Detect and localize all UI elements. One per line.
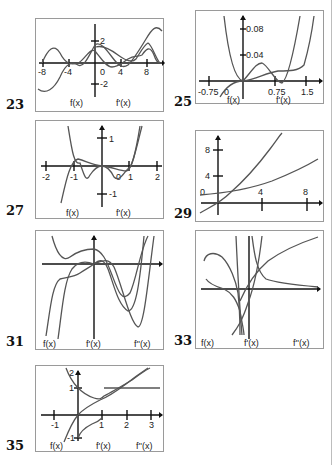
svg-text:f'(x): f'(x): [244, 338, 259, 348]
svg-text:-2: -2: [100, 79, 108, 89]
svg-text:1: 1: [128, 172, 133, 182]
svg-text:-2: -2: [42, 172, 50, 182]
svg-text:f(x): f(x): [66, 208, 79, 218]
page-margin-divider: [331, 0, 332, 465]
svg-text:f(x): f(x): [50, 441, 63, 451]
graph-panel-23: -8 -4 0 4 8 2 -2 f(x) f'(x): [35, 18, 164, 112]
svg-text:2: 2: [155, 172, 160, 182]
svg-text:0.08: 0.08: [246, 24, 264, 34]
svg-text:f(x): f(x): [227, 95, 240, 105]
svg-text:f'(x): f'(x): [116, 98, 131, 108]
svg-text:-1: -1: [109, 189, 117, 199]
svg-text:-1: -1: [67, 433, 75, 443]
problem-number-33: 33: [174, 333, 192, 348]
svg-text:f'(x): f'(x): [96, 441, 111, 451]
svg-text:4: 4: [258, 187, 263, 197]
svg-text:2: 2: [124, 420, 129, 430]
svg-text:1: 1: [69, 383, 74, 393]
svg-text:f''(x): f''(x): [134, 339, 150, 349]
svg-text:3: 3: [149, 420, 154, 430]
svg-text:-0.75: -0.75: [198, 87, 219, 97]
problem-number-31: 31: [6, 334, 24, 349]
svg-text:4: 4: [118, 67, 123, 77]
svg-text:f(x): f(x): [201, 338, 214, 348]
svg-text:1: 1: [99, 420, 104, 430]
graph-panel-35: -1 1 2 3 2 1 -1 f(x) f'(x) f''(x): [35, 365, 164, 452]
problem-number-25: 25: [174, 94, 192, 109]
problem-number-23: 23: [6, 97, 24, 112]
svg-text:8: 8: [205, 145, 210, 155]
svg-text:1.5: 1.5: [301, 87, 314, 97]
problem-number-27: 27: [6, 203, 24, 218]
graph-33: f(x) f'(x) f''(x): [196, 231, 325, 350]
svg-text:f(x): f(x): [43, 339, 56, 349]
svg-text:f''(x): f''(x): [293, 338, 309, 348]
svg-text:f''(x): f''(x): [136, 441, 152, 451]
graph-25: -0.75 0 0.75 1.5 0.08 0.04 f(x) f'(x): [196, 11, 325, 105]
graph-panel-25: -0.75 0 0.75 1.5 0.08 0.04 f(x) f'(x): [195, 10, 324, 104]
problem-number-29: 29: [174, 206, 192, 221]
graph-27: -2 -1 0 1 2 1 -1 f(x) f'(x): [36, 121, 165, 220]
svg-text:f'(x): f'(x): [86, 339, 101, 349]
svg-text:f'(x): f'(x): [276, 95, 291, 105]
svg-text:-8: -8: [38, 67, 46, 77]
graph-31: f(x) f'(x) f''(x): [36, 231, 165, 351]
graph-23: -8 -4 0 4 8 2 -2 f(x) f'(x): [36, 19, 165, 113]
graph-29: 0 4 8 8 4: [196, 131, 325, 223]
svg-text:-1: -1: [51, 420, 59, 430]
svg-text:1: 1: [109, 134, 114, 144]
svg-text:8: 8: [303, 187, 308, 197]
svg-text:0.04: 0.04: [246, 50, 264, 60]
graph-panel-33: f(x) f'(x) f''(x): [195, 230, 324, 349]
graph-panel-27: -2 -1 0 1 2 1 -1 f(x) f'(x): [35, 120, 164, 219]
svg-text:0: 0: [100, 67, 105, 77]
graph-panel-29: 0 4 8 8 4: [195, 130, 324, 222]
graph-panel-31: f(x) f'(x) f''(x): [35, 230, 164, 350]
problem-number-35: 35: [6, 438, 24, 453]
svg-text:4: 4: [205, 171, 210, 181]
svg-text:f'(x): f'(x): [116, 208, 131, 218]
graph-35: -1 1 2 3 2 1 -1 f(x) f'(x) f''(x): [36, 366, 165, 453]
svg-text:8: 8: [144, 67, 149, 77]
svg-text:f(x): f(x): [70, 98, 83, 108]
svg-text:-1: -1: [70, 172, 78, 182]
